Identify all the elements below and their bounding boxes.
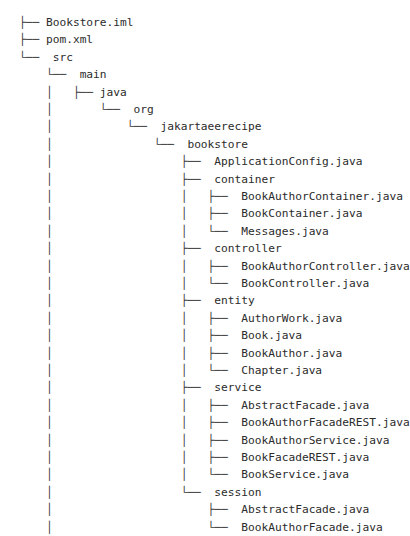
tree-directory-label[interactable]: org xyxy=(127,103,154,116)
tree-directory-label[interactable]: bookstore xyxy=(181,138,248,151)
tree-row[interactable]: │ ├── entity xyxy=(0,292,385,309)
tree-connector: │ ├── xyxy=(19,173,208,186)
tree-row[interactable]: └── src xyxy=(0,49,385,66)
tree-row[interactable]: │ ├── java xyxy=(0,84,385,101)
tree-connector: │ │ └── xyxy=(19,277,235,290)
tree-connector: │ └── xyxy=(19,103,127,116)
tree-row[interactable]: │ └── bookstore xyxy=(0,136,385,153)
tree-row[interactable]: ├── pom.xml xyxy=(0,31,385,48)
tree-connector: └── xyxy=(19,51,46,64)
tree-directory-label[interactable]: service xyxy=(208,381,262,394)
tree-connector: │ ├── xyxy=(19,155,208,168)
tree-file-label[interactable]: BookAuthor.java xyxy=(235,347,343,360)
tree-connector: ├── xyxy=(19,33,46,46)
tree-file-label[interactable]: BookAuthorFacadeREST.java xyxy=(235,416,410,429)
tree-file-label[interactable]: BookController.java xyxy=(235,277,370,290)
tree-file-label[interactable]: AbstractFacade.java xyxy=(235,503,370,516)
tree-directory-label[interactable]: container xyxy=(208,173,275,186)
tree-connector: │ │ ├── xyxy=(19,416,235,429)
tree-connector: │ ├── xyxy=(19,503,235,516)
tree-connector: │ │ ├── xyxy=(19,451,235,464)
tree-row[interactable]: │ │ ├── AbstractFacade.java xyxy=(0,397,385,414)
tree-row[interactable]: │ │ ├── Book.java xyxy=(0,327,385,344)
tree-connector: │ └── xyxy=(19,521,235,534)
tree-row[interactable]: │ │ ├── BookFacadeREST.java xyxy=(0,449,385,466)
tree-file-label[interactable]: BookAuthorContainer.java xyxy=(235,190,403,203)
tree-row[interactable]: │ │ ├── BookAuthorController.java xyxy=(0,258,385,275)
tree-file-label[interactable]: Bookstore.iml xyxy=(46,16,134,29)
tree-row[interactable]: │ │ └── Messages.java xyxy=(0,223,385,240)
tree-row[interactable]: │ ├── AbstractFacade.java xyxy=(0,501,385,518)
tree-row[interactable]: │ └── BookAuthorFacade.java xyxy=(0,519,385,536)
tree-row[interactable]: │ └── org xyxy=(0,101,385,118)
tree-connector: │ │ └── xyxy=(19,468,235,481)
tree-row[interactable]: │ │ ├── BookAuthor.java xyxy=(0,345,385,362)
tree-row[interactable]: │ ├── ApplicationConfig.java xyxy=(0,153,385,170)
tree-connector: │ └── xyxy=(19,138,181,151)
tree-row[interactable]: │ │ └── BookService.java xyxy=(0,466,385,483)
tree-connector: │ │ ├── xyxy=(19,399,235,412)
tree-directory-label[interactable]: controller xyxy=(208,242,282,255)
tree-connector: │ │ ├── xyxy=(19,434,235,447)
tree-connector: │ │ ├── xyxy=(19,190,235,203)
tree-directory-label[interactable]: main xyxy=(73,68,107,81)
tree-file-label[interactable]: Messages.java xyxy=(235,225,329,238)
tree-directory-label[interactable]: src xyxy=(46,51,73,64)
tree-row[interactable]: │ │ └── Chapter.java xyxy=(0,362,385,379)
tree-file-label[interactable]: BookAuthorController.java xyxy=(235,260,410,273)
tree-connector: │ └── xyxy=(19,120,154,133)
tree-file-label[interactable]: BookContainer.java xyxy=(235,207,363,220)
tree-connector: │ │ ├── xyxy=(19,347,235,360)
tree-connector: │ ├── xyxy=(19,381,208,394)
tree-row[interactable]: │ │ ├── BookAuthorContainer.java xyxy=(0,188,385,205)
tree-row[interactable]: └── main xyxy=(0,66,385,83)
tree-connector: │ │ └── xyxy=(19,364,235,377)
tree-file-label[interactable]: BookAuthorFacade.java xyxy=(235,521,383,534)
tree-connector: ├── xyxy=(19,16,46,29)
tree-file-label[interactable]: Chapter.java xyxy=(235,364,323,377)
tree-row[interactable]: │ │ ├── BookAuthorFacadeREST.java xyxy=(0,414,385,431)
tree-row[interactable]: ├── Bookstore.iml xyxy=(0,14,385,31)
tree-connector: │ │ ├── xyxy=(19,329,235,342)
tree-file-label[interactable]: BookAuthorService.java xyxy=(235,434,390,447)
tree-row[interactable]: │ ├── service xyxy=(0,379,385,396)
tree-connector: │ ├── xyxy=(19,86,100,99)
tree-directory-label[interactable]: session xyxy=(208,486,262,499)
tree-row[interactable]: │ └── session xyxy=(0,484,385,501)
tree-file-label[interactable]: pom.xml xyxy=(46,33,93,46)
tree-connector: └── xyxy=(19,68,73,81)
tree-row[interactable]: │ │ ├── BookAuthorService.java xyxy=(0,432,385,449)
tree-file-label[interactable]: AbstractFacade.java xyxy=(235,399,370,412)
tree-file-label[interactable]: Book.java xyxy=(235,329,302,342)
tree-directory-label[interactable]: java xyxy=(100,86,127,99)
tree-row[interactable]: │ ├── controller xyxy=(0,240,385,257)
tree-file-label[interactable]: ApplicationConfig.java xyxy=(208,155,363,168)
tree-directory-label[interactable]: entity xyxy=(208,294,255,307)
tree-connector: │ ├── xyxy=(19,242,208,255)
tree-connector: │ │ └── xyxy=(19,225,235,238)
tree-connector: │ │ ├── xyxy=(19,207,235,220)
tree-file-label[interactable]: BookService.java xyxy=(235,468,350,481)
tree-connector: │ │ ├── xyxy=(19,312,235,325)
tree-directory-label[interactable]: jakartaeerecipe xyxy=(154,120,262,133)
tree-file-label[interactable]: BookFacadeREST.java xyxy=(235,451,370,464)
tree-connector: │ ├── xyxy=(19,294,208,307)
tree-row[interactable]: │ │ ├── BookContainer.java xyxy=(0,205,385,222)
tree-row[interactable]: │ ├── container xyxy=(0,171,385,188)
tree-row[interactable]: │ │ ├── AuthorWork.java xyxy=(0,310,385,327)
tree-connector: │ └── xyxy=(19,486,208,499)
tree-row[interactable]: │ │ └── BookController.java xyxy=(0,275,385,292)
tree-row[interactable]: │ └── jakartaeerecipe xyxy=(0,118,385,135)
tree-connector: │ │ ├── xyxy=(19,260,235,273)
tree-file-label[interactable]: AuthorWork.java xyxy=(235,312,343,325)
